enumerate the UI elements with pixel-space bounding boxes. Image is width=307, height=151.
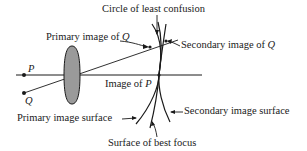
point-p (22, 73, 26, 77)
label-point-q: Q (25, 96, 33, 107)
arrowhead-icon (143, 44, 149, 49)
label-secondary-image-surface: Secondary image surface (184, 106, 290, 117)
image-p-dot (157, 73, 160, 76)
label-var: Q (268, 39, 276, 50)
arrowhead-icon (132, 116, 137, 120)
label-surface-best-focus: Surface of best focus (108, 138, 196, 149)
label-image-of-p: Image of P (105, 79, 152, 90)
label-secondary-image-of-q: Secondary image of Q (181, 40, 275, 51)
arrowhead-icon (155, 30, 159, 35)
label-point-p: P (28, 64, 34, 75)
astigmatism-diagram (0, 0, 307, 151)
label-primary-image-surface: Primary image surface (17, 113, 112, 124)
arrowhead-icon (170, 110, 175, 114)
label-text: Secondary image of (181, 39, 268, 50)
label-text: Image of (105, 78, 145, 89)
label-var: Q (122, 31, 130, 42)
label-primary-image-of-q: Primary image of Q (46, 32, 130, 43)
label-var: P (145, 78, 151, 89)
lens (64, 46, 80, 104)
label-circle-least-confusion: Circle of least confusion (102, 4, 205, 15)
primary-image-surface (136, 24, 161, 124)
ray-from-q (24, 40, 178, 93)
label-text: Primary image of (46, 31, 122, 42)
